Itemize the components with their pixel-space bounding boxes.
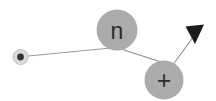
particle-diagram: n + (0, 0, 216, 101)
diagram-svg: n + (0, 0, 216, 101)
proton-label: + (157, 66, 172, 94)
arrowhead-icon (186, 25, 205, 45)
electron-dot-icon (17, 54, 24, 61)
track-proton-arrow (172, 36, 194, 66)
track-neutron-proton (121, 49, 161, 62)
neutron-label: n (111, 18, 124, 44)
neutron-particle: n (97, 10, 138, 51)
electron-particle (13, 50, 28, 65)
proton-particle: + (145, 61, 184, 100)
track-electron-neutron (28, 48, 111, 56)
